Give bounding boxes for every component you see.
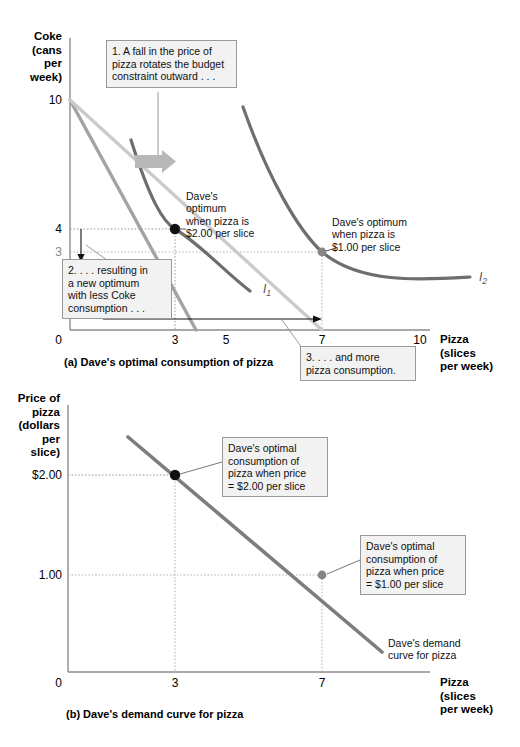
panel-a-ytick-10: 10 xyxy=(24,93,62,107)
panel-a-ytick-4: 4 xyxy=(24,222,62,236)
coke-decrease-arrow xyxy=(77,229,84,262)
indifference-curve-1-label-sub: 1 xyxy=(266,288,271,298)
panel-a-xtick-3: 3 xyxy=(160,333,190,347)
indifference-curve-1-label: I1 xyxy=(263,282,271,298)
panel-b-y-axis-title: Price of pizza (dollars per slice) xyxy=(6,392,60,460)
callout-less-coke: 2. . . . resulting in a new optimum with… xyxy=(62,259,172,319)
demand-curve-label: Dave's demand curve for pizza xyxy=(388,637,492,662)
indifference-curve-2-label: I2 xyxy=(479,270,487,286)
callout-more-pizza: 3. . . . and more pizza consumption. xyxy=(300,346,416,381)
panel-b-ytick-2: $2.00 xyxy=(14,468,62,482)
demand-point-2-dollar xyxy=(170,470,180,480)
callout-demand-2-dollar: Dave's optimal consumption of pizza when… xyxy=(222,437,328,497)
callout-budget-rotation: 1. A fall in the price of pizza rotates … xyxy=(106,40,237,88)
panel-b-ytick-1: 1.00 xyxy=(14,568,62,582)
optimum-point-1-dollar xyxy=(318,248,327,257)
panel-b-caption: (b) Dave's demand curve for pizza xyxy=(66,708,243,720)
panel-a-ytick-3: 3 xyxy=(24,245,62,259)
panel-a-ytick-0: 0 xyxy=(24,333,62,347)
leader-demand-1-dollar xyxy=(327,560,360,574)
panel-a-y-axis-title: Coke (cans per week) xyxy=(10,30,62,84)
figure-graphics xyxy=(0,0,520,747)
optimum-point-2-dollar xyxy=(170,224,180,234)
indifference-curve-2-label-sub: 2 xyxy=(482,276,487,286)
panel-a-xtick-10: 10 xyxy=(405,333,435,347)
panel-a-x-axis-title: Pizza (slices per week) xyxy=(440,333,514,374)
economics-figure: Coke (cans per week) Pizza (slices per w… xyxy=(0,0,520,747)
panel-a-xtick-5: 5 xyxy=(211,333,241,347)
callout-demand-1-dollar: Dave's optimal consumption of pizza when… xyxy=(360,535,466,595)
panel-a-xtick-7: 7 xyxy=(307,333,337,347)
leader-demand-2-dollar xyxy=(180,462,222,474)
panel-b-xtick-7: 7 xyxy=(307,676,337,690)
panel-b-xtick-3: 3 xyxy=(160,676,190,690)
note-optimum-2-dollar: Dave's optimum when pizza is $2.00 per s… xyxy=(186,190,298,240)
demand-point-1-dollar xyxy=(318,571,327,580)
panel-b-ytick-0: 0 xyxy=(24,676,62,690)
panel-a-caption: (a) Dave's optimal consumption of pizza xyxy=(64,356,273,368)
note-optimum-1-dollar: Dave's optimum when pizza is $1.00 per s… xyxy=(332,216,442,253)
panel-b-x-axis-title: Pizza (slices per week) xyxy=(440,676,514,717)
